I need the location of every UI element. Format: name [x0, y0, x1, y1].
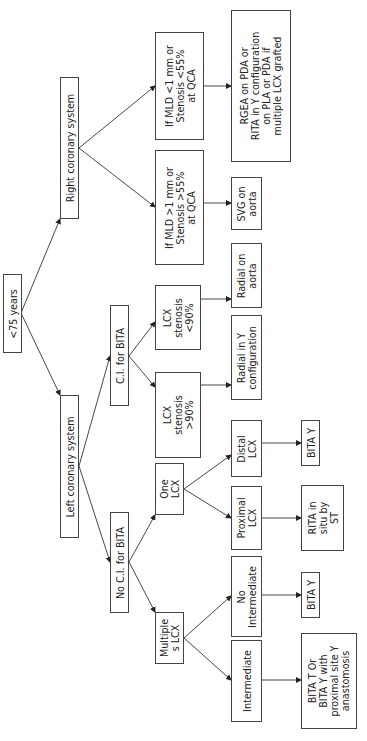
node-label: C.I. for BITA [114, 327, 125, 383]
node-mld-less-1mm: If MLD <1 mm or Stenosis <55% at QCA [155, 32, 204, 140]
node-label: No Intermediate [236, 566, 258, 628]
edge-ci-gt90 [129, 356, 155, 387]
node-label: LCX stenosis >90% [162, 395, 195, 434]
edge-multiple-int [184, 638, 231, 680]
node-intermediate: Intermediate [231, 640, 262, 722]
node-label: RGEA on PDA or RITA in Y configuration o… [239, 32, 283, 141]
node-label: LCX stenosis <90% [162, 298, 195, 337]
node-right-coronary-system: Right coronary system [60, 77, 79, 219]
node-label: Left coronary system [64, 416, 75, 517]
edge-noci-multiple [129, 562, 155, 612]
node-rita-in-situ: RITA in situ by ST [301, 485, 344, 551]
node-label: Right coronary system [64, 94, 75, 202]
node-label: If MLD <1 mm or Stenosis <55% at QCA [163, 45, 196, 127]
node-bita-y-no-intermediate: BITA Y [301, 572, 320, 618]
node-mld-more-1mm: If MLD >1 mm or Stenosis >55% at QCA [155, 150, 204, 265]
node-label: RITA in situ by ST [306, 502, 339, 535]
node-label: Proximal LCX [236, 497, 258, 538]
edge-one-distal [184, 455, 231, 489]
node-no-ci-for-bita: No C.I. for BITA [110, 512, 129, 613]
node-label: Intermediate [241, 650, 252, 712]
edge-multiple-noint [184, 596, 231, 638]
node-label: <75 years [7, 289, 18, 339]
edge-left-ci [79, 356, 110, 466]
node-label: BITA Y [305, 428, 316, 458]
edge-ci-lt90 [129, 322, 155, 356]
edge-root-left [21, 313, 60, 395]
node-label: Multiple s LCX [159, 619, 181, 657]
node-label: Distal LCX [236, 435, 258, 462]
node-label: Radial on aorta [236, 253, 258, 298]
node-label: Radial in Y configuration [236, 326, 258, 390]
node-left-coronary-system: Left coronary system [60, 395, 79, 538]
edge-one-proximal [184, 489, 231, 518]
edge-right-mldless [79, 86, 155, 148]
edge-noci-one [129, 515, 155, 562]
node-multiple-lcx: Multiple s LCX [155, 612, 184, 664]
node-label: SVG on aorta [236, 186, 258, 221]
node-lcx-stenosis-lt90: LCX stenosis <90% [155, 285, 201, 350]
node-proximal-lcx: Proximal LCX [231, 486, 262, 550]
node-svg-on-aorta: SVG on aorta [231, 177, 262, 230]
node-no-intermediate: No Intermediate [231, 556, 262, 637]
edge-right-mldmore [79, 148, 155, 207]
node-radial-y-configuration: Radial in Y configuration [231, 315, 262, 400]
node-ci-for-bita: C.I. for BITA [110, 305, 129, 406]
node-distal-lcx: Distal LCX [231, 420, 262, 477]
node-bita-y-distal: BITA Y [301, 420, 320, 466]
node-label: BITA Y [305, 580, 316, 610]
node-one-lcx: One LCX [155, 463, 184, 515]
node-label: No C.I. for BITA [114, 526, 125, 598]
edge-left-noci [79, 466, 110, 562]
node-rgea-on-pda: RGEA on PDA or RITA in Y configuration o… [231, 10, 291, 162]
node-label: One LCX [159, 479, 181, 499]
node-label: BITA T Or BITA Y with proximal site Y an… [307, 646, 351, 717]
node-radial-on-aorta: Radial on aorta [231, 243, 262, 308]
node-lcx-stenosis-gt90: LCX stenosis >90% [155, 372, 201, 458]
edge-root-right [21, 219, 60, 313]
node-root-age: <75 years [3, 274, 22, 353]
node-label: If MLD >1 mm or Stenosis >55% at QCA [163, 166, 196, 248]
node-bita-t-or-bita-y: BITA T Or BITA Y with proximal site Y an… [301, 633, 357, 729]
